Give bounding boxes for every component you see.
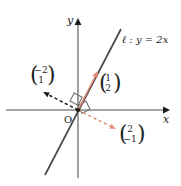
vector-label-normal-left: ( −2 1 ) [30,62,56,87]
vector-normal-left-bottom: 1 [38,75,44,85]
origin-label: O [64,114,72,125]
x-axis-label: x [163,113,170,126]
paren-close-left: ) [47,62,56,87]
vector-label-direction: ( 1 2 ) [99,70,122,95]
y-axis-label: y [66,14,74,27]
vector-normal-right-top: 2 [127,124,133,134]
vector-normal-right-bottom: −1 [123,134,136,144]
vector-direction-top: 1 [105,73,111,83]
figure-canvas: y x O ℓ : y = 2x ( −2 1 ) ( 1 2 ) ( 2 −1… [0,0,181,186]
vector-label-normal-right: ( 2 −1 ) [119,121,146,146]
right-angle-mark-left [70,93,82,105]
vector-normal-right-arrow [78,110,114,128]
paren-close-dir: ) [113,70,122,95]
origin-point [76,108,80,112]
line-ell-label: ℓ : y = 2x [122,34,169,45]
vector-direction-bottom: 2 [105,83,111,93]
vector-normal-left-top: −2 [34,65,47,75]
paren-close-right: ) [137,121,146,146]
vector-diagram-figure: y x O ℓ : y = 2x ( −2 1 ) ( 1 2 ) ( 2 −1… [0,0,181,186]
